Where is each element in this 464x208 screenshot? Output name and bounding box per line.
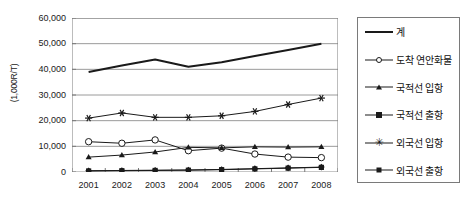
legend-marker-plain-line-icon	[364, 25, 394, 39]
plot-svg	[72, 18, 338, 172]
x-axis-tick-label: 2001	[79, 180, 99, 190]
data-point-marker	[85, 139, 91, 145]
data-point-marker	[118, 110, 125, 116]
x-axis-tick-label: 2006	[245, 180, 265, 190]
legend-item[interactable]: 국적선 출항	[358, 105, 459, 125]
data-point-marker	[318, 154, 324, 160]
y-axis-tick-label: 50,000	[38, 39, 66, 48]
data-point-marker	[119, 140, 125, 146]
y-axis-tick-label: 0	[61, 168, 66, 177]
data-point-marker	[285, 101, 292, 107]
y-axis-tick-label: 20,000	[38, 116, 66, 125]
x-axis-tick-label: 2005	[212, 180, 232, 190]
data-point-marker	[252, 151, 258, 157]
x-axis-tick-label: 2004	[178, 180, 198, 190]
data-point-marker	[185, 114, 192, 120]
legend-item-label: 국적선 입항	[396, 80, 443, 95]
legend-item[interactable]: 외국선 출항	[358, 160, 459, 180]
legend-marker-open-circle-icon	[364, 53, 394, 67]
x-axis-tick-labels: 20012002200320042005200620072008	[72, 176, 338, 192]
legend-item[interactable]: 계	[358, 22, 459, 42]
y-axis-tick-label: 30,000	[38, 91, 66, 100]
series-4	[85, 95, 325, 121]
legend-item-label: 외국선 출항	[396, 163, 443, 178]
legend-marker-filled-square-icon	[364, 108, 394, 122]
data-point-marker	[119, 167, 126, 172]
y-axis-tick-label: 40,000	[38, 65, 66, 74]
y-axis-tick-labels: 60,00050,00040,00030,00020,00010,0000	[14, 0, 66, 208]
series-line	[89, 44, 322, 72]
data-point-marker	[318, 95, 325, 101]
data-point-marker	[218, 113, 225, 119]
legend-item[interactable]: 국적선 입항	[358, 77, 459, 97]
legend-marker-star-icon: ✳	[364, 136, 394, 150]
x-axis-tick-label: 2003	[145, 180, 165, 190]
x-axis-tick-label: 2007	[278, 180, 298, 190]
data-point-marker	[152, 137, 158, 143]
series-0	[89, 44, 322, 72]
legend-item[interactable]: 도착 연안화물	[358, 50, 459, 70]
y-axis-tick-label: 10,000	[38, 142, 66, 151]
y-axis-tick-label: 60,000	[38, 14, 66, 23]
data-point-marker	[251, 108, 258, 114]
x-axis-tick-label: 2002	[112, 180, 132, 190]
chart-legend: 계도착 연안화물국적선 입항국적선 출항✳외국선 입항외국선 출항	[357, 17, 460, 183]
legend-marker-triangle-icon	[364, 80, 394, 94]
legend-marker-filled-diamond-icon	[364, 163, 394, 177]
chart-figure: (1,000R/T) 60,00050,00040,00030,00020,00…	[0, 0, 464, 208]
legend-item-label: 도착 연안화물	[396, 52, 452, 67]
data-point-marker	[285, 154, 291, 160]
legend-item-label: 외국선 입항	[396, 135, 443, 150]
legend-item-label: 계	[396, 24, 405, 39]
x-axis-tick-label: 2008	[311, 180, 331, 190]
legend-item-label: 국적선 출항	[396, 107, 443, 122]
plot-area	[72, 18, 338, 172]
data-point-marker	[152, 114, 159, 120]
legend-item[interactable]: ✳외국선 입항	[358, 133, 459, 153]
